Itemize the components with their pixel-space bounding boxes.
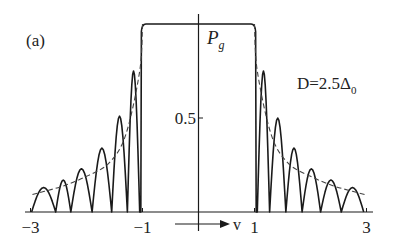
chart-canvas: −3−113 0.5 (a) Pg D=2.5Δ0 v — [0, 0, 403, 241]
y-tick-label: 0.5 — [175, 109, 196, 128]
y-axis-label-main: P — [206, 27, 219, 48]
series-oscillating-curve — [32, 24, 364, 212]
parameter-annotation: D=2.5Δ0 — [297, 74, 357, 96]
annotation-main: D=2.5Δ — [297, 74, 351, 93]
x-tick-label: 1 — [250, 218, 259, 237]
annotation-subscript: 0 — [351, 84, 357, 96]
chart-figure: −3−113 0.5 (a) Pg D=2.5Δ0 v — [0, 0, 403, 241]
y-axis-label: Pg — [206, 27, 225, 52]
panel-label: (a) — [26, 31, 45, 50]
x-tick-label: −1 — [133, 218, 151, 237]
x-axis-label: v — [233, 216, 241, 233]
y-axis-label-subscript: g — [219, 38, 225, 52]
x-tick-label: −3 — [21, 218, 39, 237]
x-tick-label: 3 — [362, 218, 371, 237]
arrow-head-icon — [220, 220, 230, 228]
